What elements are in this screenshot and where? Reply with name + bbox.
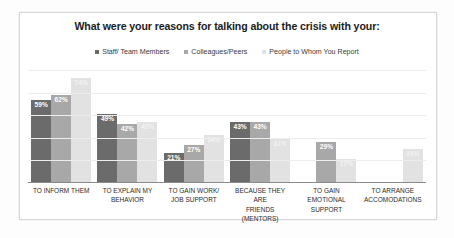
gridline	[28, 70, 426, 71]
legend-item-0[interactable]: Staff/ Team Members	[95, 48, 169, 56]
bar[interactable]: 43%	[137, 122, 157, 183]
x-axis-label-1: TO EXPLAIN MYBEHAVIOR	[94, 186, 160, 224]
bar-value-label: 62%	[51, 97, 71, 104]
bar-value-label: 29%	[316, 144, 336, 151]
gridline	[28, 160, 426, 161]
legend-label: Staff/ Team Members	[102, 48, 169, 56]
bar[interactable]: 43%	[230, 122, 250, 183]
bar-value-label: 31%	[270, 141, 290, 148]
x-axis-label-0: TO INFORM THEM	[28, 186, 94, 224]
bar-value-label: 43%	[250, 124, 270, 131]
bar-value-label: 74%	[71, 80, 91, 87]
bar-group: 59%62%74%	[28, 70, 94, 183]
chart-title: What were your reasons for talking about…	[19, 20, 435, 32]
x-axis-label-3: BECAUSE THEY AREFRIENDS(MENTORS)	[227, 186, 293, 224]
legend-swatch-icon	[95, 50, 99, 54]
legend-label: Colleagues/Peers	[191, 48, 247, 56]
chart-legend: Staff/ Team MembersColleagues/PeersPeopl…	[19, 48, 435, 56]
bar-value-label: 49%	[97, 116, 117, 123]
bar-group: 21%27%34%	[161, 70, 227, 183]
bar[interactable]: 21%	[164, 153, 184, 183]
bar[interactable]: 59%	[31, 100, 51, 183]
chart-page: What were your reasons for talking about…	[0, 0, 454, 238]
x-axis-label-2: TO GAIN WORK/JOB SUPPORT	[161, 186, 227, 224]
legend-item-1[interactable]: Colleagues/Peers	[184, 48, 247, 56]
legend-swatch-icon	[262, 50, 266, 54]
bar[interactable]: 17%	[336, 159, 356, 183]
gridline	[28, 115, 426, 116]
bar-value-label: 27%	[184, 147, 204, 154]
bar-group: 43%43%31%	[227, 70, 293, 183]
x-axis-label-5: TO ARRANGEACCOMODATIONS	[360, 186, 426, 224]
bar[interactable]: 24%	[403, 149, 423, 183]
bar[interactable]: 49%	[97, 114, 117, 183]
legend-label: People to Whom You Report	[269, 48, 359, 56]
bar[interactable]: 42%	[117, 124, 137, 183]
bar-value-label: 59%	[31, 102, 51, 109]
bar-value-label: 24%	[403, 151, 423, 158]
bar[interactable]: 29%	[316, 142, 336, 183]
plot-area: 59%62%74%49%42%43%21%27%34%43%43%31%29%1…	[28, 70, 426, 183]
x-axis-label-4: TO GAINEMOTIONALSUPPORT	[293, 186, 359, 224]
x-axis-labels: TO INFORM THEMTO EXPLAIN MYBEHAVIORTO GA…	[28, 186, 426, 224]
gridline	[28, 138, 426, 139]
bar-value-label: 42%	[117, 126, 137, 133]
x-axis-line	[28, 182, 426, 183]
legend-item-2[interactable]: People to Whom You Report	[262, 48, 359, 56]
legend-swatch-icon	[184, 50, 188, 54]
gridline	[28, 93, 426, 94]
bar-value-label: 43%	[230, 124, 250, 131]
bar[interactable]: 74%	[71, 78, 91, 183]
bar[interactable]: 62%	[51, 95, 71, 183]
bar[interactable]: 27%	[184, 145, 204, 183]
bar-groups: 59%62%74%49%42%43%21%27%34%43%43%31%29%1…	[28, 70, 426, 183]
bar[interactable]: 34%	[204, 135, 224, 183]
bar-value-label: 17%	[336, 161, 356, 168]
bar-group: 24%	[360, 70, 426, 183]
bar[interactable]: 43%	[250, 122, 270, 183]
bar-group: 49%42%43%	[94, 70, 160, 183]
bar-group: 29%17%	[293, 70, 359, 183]
bar-value-label: 43%	[137, 124, 157, 131]
